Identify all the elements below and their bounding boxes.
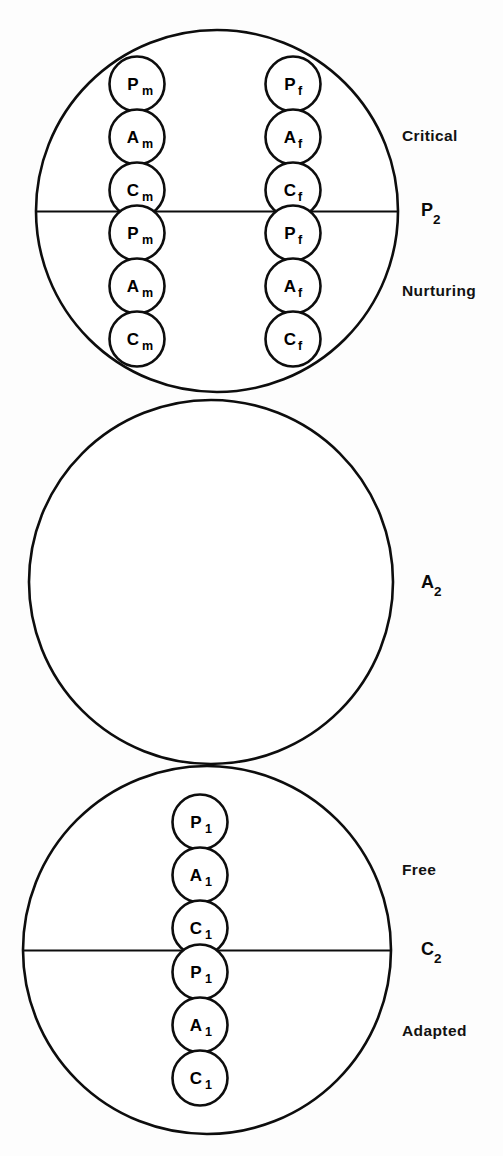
child-ego-state-group: P 1 A 1 C 1 P 1 A 1 C 1 Free C 2 Adapted <box>23 766 467 1134</box>
node-sub-p1-adapted: 1 <box>205 972 212 986</box>
node-label-cm-nurturing: C <box>127 330 139 349</box>
adult-ego-state-group: A 2 <box>29 400 442 764</box>
node-sub-p1-free: 1 <box>205 822 212 836</box>
adult-outer-circle <box>29 400 393 764</box>
node-label-p1-adapted: P <box>190 963 201 982</box>
child-state-subscript: 2 <box>434 951 442 966</box>
node-label-c1-adapted: C <box>190 1069 202 1088</box>
ego-state-diagram: P m A m C m P m A m C m P <box>0 0 503 1156</box>
parent-ego-state-group: P m A m C m P m A m C m P <box>36 30 476 392</box>
node-sub-am-critical: m <box>142 137 153 151</box>
node-label-a1-free: A <box>190 866 202 885</box>
node-label-c1-free: C <box>190 919 202 938</box>
node-label-af-nurturing: A <box>284 277 296 296</box>
parent-nurturing-label: Nurturing <box>402 282 476 299</box>
node-label-a1-adapted: A <box>190 1016 202 1035</box>
node-sub-c1-free: 1 <box>205 928 212 942</box>
node-label-am-critical: A <box>127 128 139 147</box>
node-sub-c1-adapted: 1 <box>205 1078 212 1092</box>
child-state-label: C <box>421 939 434 959</box>
node-label-pm-critical: P <box>127 75 138 94</box>
diagram-canvas: P m A m C m P m A m C m P <box>0 0 503 1156</box>
child-free-label: Free <box>402 861 436 878</box>
node-sub-pm-critical: m <box>142 84 153 98</box>
node-sub-cm-nurturing: m <box>142 339 153 353</box>
node-label-pm-nurturing: P <box>127 224 138 243</box>
parent-state-subscript: 2 <box>433 212 441 227</box>
node-sub-pm-nurturing: m <box>142 233 153 247</box>
node-label-pf-critical: P <box>284 75 295 94</box>
node-label-p1-free: P <box>190 813 201 832</box>
parent-critical-label: Critical <box>402 127 458 144</box>
node-label-cm-critical: C <box>127 181 139 200</box>
child-adapted-label: Adapted <box>402 1022 467 1039</box>
adult-state-label: A <box>421 572 434 592</box>
node-sub-a1-free: 1 <box>205 875 212 889</box>
node-label-cf-nurturing: C <box>284 330 296 349</box>
node-label-pf-nurturing: P <box>284 224 295 243</box>
parent-state-label: P <box>421 200 433 220</box>
adult-state-subscript: 2 <box>434 584 442 599</box>
node-sub-am-nurturing: m <box>142 286 153 300</box>
node-sub-a1-adapted: 1 <box>205 1025 212 1039</box>
node-label-cf-critical: C <box>284 181 296 200</box>
node-label-am-nurturing: A <box>127 277 139 296</box>
node-sub-cm-critical: m <box>142 190 153 204</box>
node-label-af-critical: A <box>284 128 296 147</box>
